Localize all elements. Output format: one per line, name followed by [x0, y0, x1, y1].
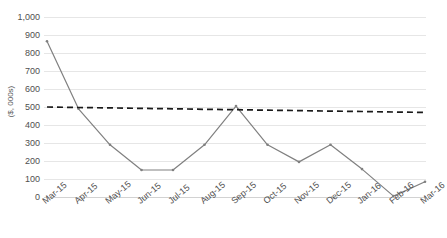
y-tick-label: 200 [10, 157, 40, 166]
data-point-marker [235, 105, 238, 108]
data-point-marker [329, 144, 332, 147]
y-tick-label: 100 [10, 175, 40, 184]
data-point-marker [266, 144, 269, 147]
y-tick-label: 300 [10, 139, 40, 148]
data-point-marker [172, 169, 175, 172]
data-point-marker [109, 144, 112, 147]
data-series-line [47, 41, 425, 196]
y-tick-label: 700 [10, 67, 40, 76]
data-point-marker [361, 168, 364, 171]
data-point-marker [203, 144, 206, 147]
data-point-marker [424, 180, 427, 183]
y-tick-label: 0 [10, 193, 40, 202]
y-tick-label: 900 [10, 31, 40, 40]
y-tick-label: 1,000 [10, 13, 40, 22]
y-tick-label: 600 [10, 85, 40, 94]
y-axis-tick-labels: 1,0009008007006005004003002001000 [10, 0, 40, 238]
data-point-marker [298, 161, 301, 164]
trend-line [47, 107, 425, 112]
x-axis-tick-labels: Mar-15Apr-15May-15Jun-15Jul-15Aug-15Sep-… [44, 199, 426, 238]
y-tick-label: 500 [10, 103, 40, 112]
y-tick-label: 800 [10, 49, 40, 58]
data-point-markers [46, 40, 427, 197]
y-tick-label: 400 [10, 121, 40, 130]
data-point-marker [140, 169, 143, 172]
data-point-marker [46, 40, 49, 43]
